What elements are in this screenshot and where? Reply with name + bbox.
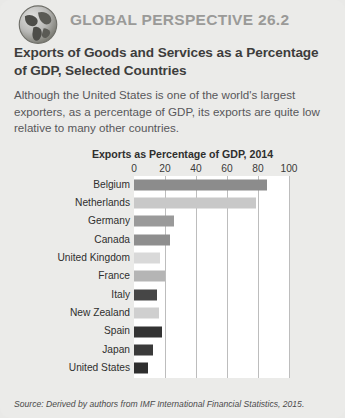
x-tick-label: 0 — [131, 163, 137, 174]
chart-bar — [134, 198, 256, 209]
chart-row: Spain — [0, 322, 345, 340]
chart-bar — [134, 271, 165, 282]
chart-bar — [134, 344, 153, 355]
source-prefix: Source: Derived by authors from — [14, 399, 140, 409]
x-tick-label: 80 — [252, 163, 263, 174]
source-suffix: 2015. — [280, 399, 304, 409]
x-tick-label: 100 — [281, 163, 298, 174]
panel-header: GLOBAL PERSPECTIVE 26.2 — [0, 0, 345, 40]
chart-bar — [134, 234, 170, 245]
panel-eyebrow-title: GLOBAL PERSPECTIVE 26.2 — [70, 11, 289, 29]
chart-category-label: Italy — [0, 290, 130, 300]
chart-category-label: Belgium — [0, 180, 130, 190]
chart-x-axis: 020406080100 — [0, 163, 345, 176]
chart-bar — [134, 216, 174, 227]
chart-bar — [134, 179, 267, 190]
x-tick-label: 20 — [159, 163, 170, 174]
chart-bar — [134, 326, 162, 337]
intro-paragraph: Although the United States is one of the… — [14, 87, 331, 136]
chart-category-label: Netherlands — [0, 198, 130, 208]
source-note: Source: Derived by authors from IMF Inte… — [14, 399, 304, 409]
chart-row: United Kingdom — [0, 249, 345, 267]
chart-bar — [134, 289, 157, 300]
chart-rows: BelgiumNetherlandsGermanyCanadaUnited Ki… — [0, 176, 345, 378]
chart-row: Germany — [0, 212, 345, 230]
chart-category-label: Spain — [0, 326, 130, 336]
chart-row: France — [0, 267, 345, 285]
chart-row: Japan — [0, 341, 345, 359]
chart-category-label: Canada — [0, 235, 130, 245]
chart-category-label: United Kingdom — [0, 253, 130, 263]
global-perspective-panel: GLOBAL PERSPECTIVE 26.2 Exports of Goods… — [0, 0, 345, 418]
chart-row: Belgium — [0, 176, 345, 194]
source-italic: IMF International Financial Statistics, — [140, 399, 280, 409]
chart-bar — [134, 363, 148, 374]
page-title: Exports of Goods and Services as a Perce… — [14, 44, 331, 80]
chart-row: Italy — [0, 286, 345, 304]
chart-row: United States — [0, 359, 345, 377]
globe-icon — [14, 3, 62, 48]
chart-row: New Zealand — [0, 304, 345, 322]
chart: Exports as Percentage of GDP, 2014 02040… — [0, 148, 345, 381]
chart-category-label: Germany — [0, 216, 130, 226]
x-tick-label: 40 — [190, 163, 201, 174]
chart-category-label: Japan — [0, 345, 130, 355]
chart-category-label: United States — [0, 363, 130, 373]
chart-category-label: New Zealand — [0, 308, 130, 318]
chart-bar — [134, 308, 159, 319]
chart-row: Netherlands — [0, 194, 345, 212]
chart-plot: BelgiumNetherlandsGermanyCanadaUnited Ki… — [0, 176, 345, 378]
chart-row: Canada — [0, 231, 345, 249]
x-tick-label: 60 — [221, 163, 232, 174]
chart-title: Exports as Percentage of GDP, 2014 — [0, 148, 345, 160]
chart-category-label: France — [0, 271, 130, 281]
chart-bar — [134, 253, 160, 264]
